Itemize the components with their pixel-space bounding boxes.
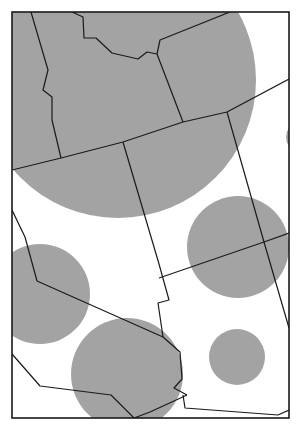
map-layers	[0, 0, 300, 430]
map-canvas	[0, 0, 300, 435]
circle-right-edge	[286, 121, 300, 153]
boundary-az-nm-south	[183, 395, 289, 415]
circle-large-north	[0, 0, 256, 218]
proportional-circles-layer	[0, 0, 300, 430]
circle-west-mid	[0, 244, 90, 344]
circle-south-center	[71, 318, 183, 430]
circle-east-mid	[187, 196, 289, 298]
circle-southeast-small	[209, 329, 265, 385]
